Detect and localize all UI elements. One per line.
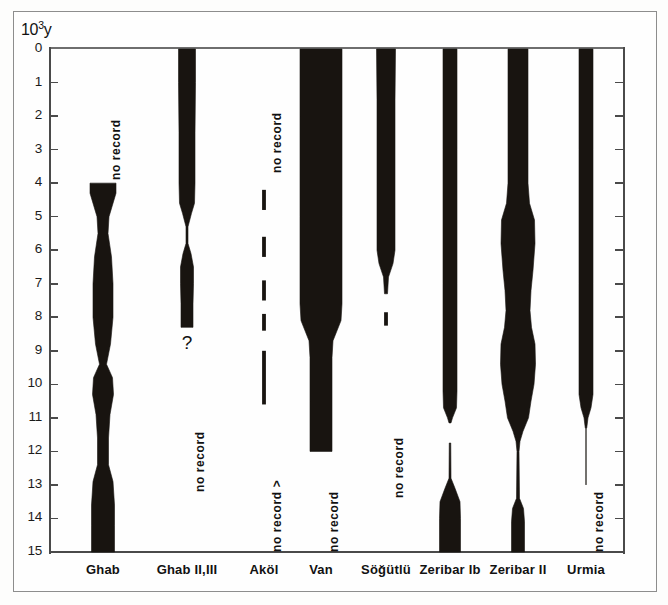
no-record-label-ak-l: no record: [270, 112, 284, 173]
y-tick-left-9: [49, 350, 58, 352]
no-record-label-ghab: no record: [109, 119, 123, 180]
y-tick-left-14: [49, 518, 58, 520]
y-tick-label-1: 1: [14, 74, 42, 89]
y-tick-left-3: [49, 149, 58, 151]
y-tick-right-2: [615, 115, 624, 117]
y-tick-label-11: 11: [14, 409, 42, 424]
y-tick-right-13: [615, 484, 624, 486]
pollen-diagram-figure: 103y 0123456789101112131415 GhabGhab II,…: [0, 0, 668, 605]
y-tick-right-3: [615, 149, 624, 151]
y-tick-left-1: [49, 82, 58, 84]
y-tick-right-8: [615, 316, 624, 318]
y-tick-right-6: [615, 249, 624, 251]
y-tick-label-6: 6: [14, 241, 42, 256]
y-tick-right-9: [615, 350, 624, 352]
y-tick-label-7: 7: [14, 275, 42, 290]
y-tick-left-7: [49, 283, 58, 285]
x-label-ghab-ii-iii: Ghab II,III: [157, 562, 218, 577]
x-label-zeribar-ib: Zeribar Ib: [419, 562, 480, 577]
axis-left: [49, 47, 51, 554]
y-tick-label-15: 15: [14, 543, 42, 558]
y-tick-label-3: 3: [14, 141, 42, 156]
no-record-label-van: no record: [327, 491, 341, 552]
y-tick-label-5: 5: [14, 208, 42, 223]
y-tick-right-14: [615, 518, 624, 520]
y-tick-label-14: 14: [14, 509, 42, 524]
y-axis-unit-label: 103y: [21, 19, 51, 39]
y-tick-label-12: 12: [14, 442, 42, 457]
y-tick-label-8: 8: [14, 308, 42, 323]
y-tick-label-4: 4: [14, 174, 42, 189]
axis-top: [49, 47, 625, 49]
y-tick-left-11: [49, 417, 58, 419]
y-tick-right-11: [615, 417, 624, 419]
y-tick-left-6: [49, 249, 58, 251]
y-tick-left-8: [49, 316, 58, 318]
y-tick-label-10: 10: [14, 375, 42, 390]
y-tick-right-5: [615, 216, 624, 218]
x-label-s-tl-: Söğütlü: [361, 562, 411, 577]
x-label-ghab: Ghab: [86, 562, 120, 577]
no-record-label-2-ak-l: no record >: [270, 480, 284, 552]
no-record-label-urmia: no record: [592, 491, 606, 552]
y-tick-label-2: 2: [14, 107, 42, 122]
y-tick-right-4: [615, 182, 624, 184]
y-tick-left-10: [49, 384, 58, 386]
x-label-urmia: Urmia: [567, 562, 605, 577]
y-tick-left-5: [49, 216, 58, 218]
y-tick-right-12: [615, 451, 624, 453]
y-tick-left-2: [49, 115, 58, 117]
axis-right: [623, 47, 625, 554]
y-axis-unit-suffix: y: [44, 21, 52, 38]
y-tick-label-13: 13: [14, 476, 42, 491]
x-label-zeribar-ii: Zeribar II: [490, 562, 547, 577]
y-tick-label-0: 0: [14, 40, 42, 55]
y-tick-left-12: [49, 451, 58, 453]
x-label-van: Van: [309, 562, 333, 577]
no-record-label-ghab-ii-iii: no record: [193, 431, 207, 492]
x-label-ak-l: Aköl: [250, 562, 279, 577]
y-tick-left-13: [49, 484, 58, 486]
uncertainty-marker-ghab-ii-iii: ?: [182, 332, 193, 354]
y-axis-unit-base: 10: [21, 21, 38, 38]
y-tick-right-7: [615, 283, 624, 285]
no-record-label-s-tl-: no record: [392, 438, 406, 499]
y-tick-label-9: 9: [14, 342, 42, 357]
y-tick-right-10: [615, 384, 624, 386]
y-tick-right-1: [615, 82, 624, 84]
y-tick-left-4: [49, 182, 58, 184]
